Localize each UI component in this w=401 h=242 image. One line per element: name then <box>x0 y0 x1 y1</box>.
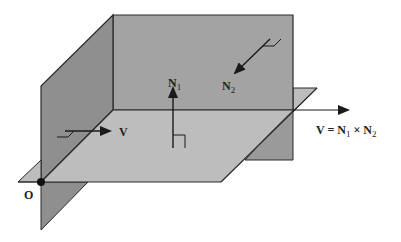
cross-product-formula: V = N1 × N2 <box>316 124 376 139</box>
left-plane-lower <box>41 182 88 230</box>
n1-label: N1 <box>168 77 181 92</box>
rear-plane <box>113 15 293 110</box>
horizontal-plane-left <box>18 160 41 182</box>
planes-diagram <box>0 0 401 242</box>
v-label: V <box>119 126 128 138</box>
origin-point <box>37 178 45 186</box>
origin-label: O <box>24 189 33 201</box>
n2-label: N2 <box>222 80 235 95</box>
